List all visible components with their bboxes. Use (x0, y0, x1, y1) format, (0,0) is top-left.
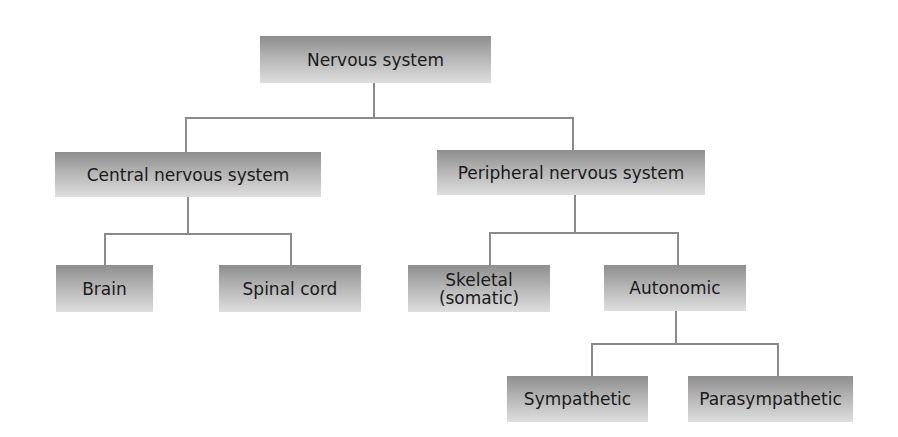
connector-to-cns (185, 117, 187, 153)
node-label: Central nervous system (87, 166, 289, 184)
connector-to-skeletal (489, 232, 491, 266)
connector-root-down (373, 82, 375, 119)
node-label: Spinal cord (243, 280, 338, 298)
node-label: Parasympathetic (699, 390, 842, 408)
node-label: Autonomic (629, 279, 720, 297)
node-sympathetic: Sympathetic (507, 376, 648, 422)
connector-pns-bar (489, 232, 679, 234)
connector-to-pns (572, 117, 574, 151)
node-label-line1: Skeletal (445, 271, 512, 289)
connector-to-spinal-cord (290, 233, 292, 266)
node-skeletal-somatic: Skeletal (somatic) (408, 265, 550, 312)
node-peripheral-nervous-system: Peripheral nervous system (437, 150, 705, 195)
connector-pns-down (574, 194, 576, 233)
node-spinal-cord: Spinal cord (219, 265, 361, 312)
node-label: Nervous system (307, 51, 444, 69)
connector-to-sympathetic (591, 343, 593, 376)
connector-autonomic-down (675, 311, 677, 345)
connector-cns-bar (104, 233, 292, 235)
connector-to-brain (104, 233, 106, 266)
node-central-nervous-system: Central nervous system (55, 152, 321, 197)
node-parasympathetic: Parasympathetic (688, 376, 853, 422)
connector-to-parasympathetic (777, 343, 779, 376)
node-nervous-system: Nervous system (260, 36, 491, 83)
node-label: Brain (82, 280, 127, 298)
node-label: Sympathetic (524, 390, 631, 408)
connector-cns-down (187, 196, 189, 234)
connector-root-bar (185, 117, 574, 119)
connector-to-autonomic (677, 232, 679, 265)
node-label-line2: (somatic) (439, 289, 519, 307)
node-label: Peripheral nervous system (458, 164, 685, 182)
node-brain: Brain (56, 265, 153, 312)
node-autonomic: Autonomic (604, 265, 746, 311)
nervous-system-diagram: Nervous system Central nervous system Pe… (0, 0, 898, 437)
connector-autonomic-bar (591, 343, 779, 345)
